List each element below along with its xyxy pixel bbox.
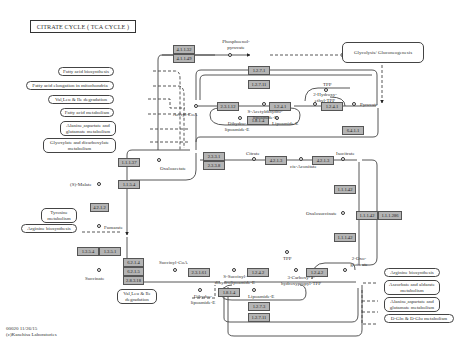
enzyme-1-1-1-37[interactable]: 1.1.1.37 xyxy=(118,158,140,167)
compound-node-oxoglutarate[interactable] xyxy=(343,268,347,272)
label-citrate: Citrate xyxy=(246,151,260,157)
compound-node-acetyl-coa[interactable] xyxy=(194,104,198,108)
enzyme-6-2-1-4[interactable]: 6.2.1.4 xyxy=(123,258,144,267)
enzyme-1-2-7-11-b[interactable]: 1.2.7.11 xyxy=(248,313,270,322)
label-cis-aconitate: cis-Aconitate xyxy=(290,164,317,170)
enzyme-1-2-4-1-b[interactable]: 1.2.4.1 xyxy=(321,102,343,111)
label-acetyl-coa: Acetyl-CoA xyxy=(173,112,197,118)
enzyme-2-3-3-1[interactable]: 2.3.3.1 xyxy=(203,152,225,161)
label-fumarate: Fumarate xyxy=(104,225,123,231)
enzyme-1-2-7-1[interactable]: 1.2.7.1 xyxy=(248,66,270,75)
compound-node-phosphoenolpyruvate[interactable] xyxy=(228,53,232,57)
compound-node-succinate[interactable] xyxy=(97,268,101,272)
enzyme-1-1-1-42-a[interactable]: 1.1.1.42 xyxy=(334,185,356,194)
enzyme-1-1-5-4[interactable]: 1.1.5.4 xyxy=(118,180,140,189)
label-dihydrolipoamide-bottom: Dihydro-lipoamide-E xyxy=(189,294,217,305)
enzyme-4-2-1-3-a[interactable]: 4.2.1.3 xyxy=(265,156,287,165)
label-lipoamide-bottom: Lipoamide-E xyxy=(248,294,274,300)
label-dihydrolipoamide-top: Dihydro-lipoamide-E xyxy=(222,121,252,132)
map-ala-asp-glu-right[interactable]: Alanine,aspartate and glutamate metaboli… xyxy=(384,297,440,312)
compound-node-tpp-bottom[interactable] xyxy=(285,250,289,254)
label-succinyl-coa: Succinyl-CoA xyxy=(159,260,188,266)
enzyme-1-1-1-42-b[interactable]: 1.1.1.42 xyxy=(356,211,378,220)
label-phosphoenolpyruvate: Phosphoenol-pyruvate xyxy=(214,39,258,50)
label-oxalosuccinate: Oxalosuccinate xyxy=(306,211,337,217)
map-arginine-left[interactable]: Arginine biosynthesis xyxy=(21,224,77,233)
map-ala-asp-glu-left[interactable]: Alanine,aspartate and glutamate metaboli… xyxy=(60,121,116,136)
label-oxoglutarate: 2-Oxo-glutarate xyxy=(348,256,370,267)
compound-node-dihydrolipoamide-bottom[interactable] xyxy=(198,288,202,292)
compound-node-malate[interactable] xyxy=(97,182,101,186)
enzyme-2-3-3-8[interactable]: 2.3.3.8 xyxy=(203,161,225,170)
footer: 00020 11/26/15 (c)Kanehisa Laboratories xyxy=(6,326,57,337)
label-succinate: Succinate xyxy=(85,276,104,282)
compound-node-pyruvate[interactable] xyxy=(352,102,356,106)
enzyme-1-8-1-4-bottom[interactable]: 1.8.1.4 xyxy=(218,288,240,297)
label-isocitrate: Isocitrate xyxy=(336,151,355,157)
enzyme-1-2-7-11[interactable]: 1.2.7.11 xyxy=(248,80,270,89)
enzyme-4-2-1-2[interactable]: 4.2.1.2 xyxy=(90,203,109,212)
label-pyruvate: Pyruvate xyxy=(360,102,378,108)
label-oxaloacetate-left: Oxaloacetate xyxy=(160,166,186,172)
enzyme-1-3-5-4[interactable]: 1.3.5.4 xyxy=(77,247,99,256)
enzyme-2-3-1-61[interactable]: 2.3.1.61 xyxy=(188,268,210,277)
compound-node-s-succinyldihydrolipoamide[interactable] xyxy=(232,268,236,272)
enzyme-2-8-3-18[interactable]: 2.8.3.18 xyxy=(123,276,144,285)
map-fatty-acid-biosynthesis[interactable]: Fatty acid biosynthesis xyxy=(58,67,114,76)
compound-node-citrate[interactable] xyxy=(252,157,256,161)
compound-node-cis-aconitate[interactable] xyxy=(299,157,303,161)
compound-node-isocitrate[interactable] xyxy=(341,157,345,161)
compound-node-lipoamide-bottom[interactable] xyxy=(252,288,256,292)
label-s-succinyldihydrolipoamide: S-Succinyl-dihydrolipoamide-E xyxy=(212,274,258,285)
compound-node-carboxy-hydroxypropyl-tpp[interactable] xyxy=(294,268,298,272)
map-ascorbate[interactable]: Ascorbate and aldarate metabolism xyxy=(384,280,440,295)
label-s-acetyldihydrolipoamide: S-Acetyldihydro-lipoamide-E xyxy=(240,109,290,120)
label-tpp-top: TPP xyxy=(323,82,332,88)
pathway-title: CITRATE CYCLE ( TCA CYCLE ) xyxy=(30,20,136,33)
enzyme-6-2-1-5[interactable]: 6.2.1.5 xyxy=(123,267,144,276)
enzyme-1-1-1-286[interactable]: 1.1.1.286 xyxy=(378,211,402,220)
label-tpp-bottom: TPP xyxy=(283,256,292,262)
compound-node-s-acetyldihydrolipoamide[interactable] xyxy=(262,102,266,106)
map-arginine-right[interactable]: Arginine biosynthesis xyxy=(384,268,440,277)
compound-node-oxalosuccinate[interactable] xyxy=(341,211,345,215)
enzyme-2-3-1-12[interactable]: 2.3.1.12 xyxy=(217,102,239,111)
compound-node-fumarate[interactable] xyxy=(97,224,101,228)
label-malate: (S)-Malate xyxy=(70,182,92,188)
footer-copyright: (c)Kanehisa Laboratories xyxy=(6,332,57,338)
enzyme-1-2-7-3[interactable]: 1.2.7.3 xyxy=(248,302,270,311)
map-val-leu-ile-bottom[interactable]: Val,Leu & Ile degradation xyxy=(117,289,157,304)
map-glycolysis[interactable]: Glycolysis/ Gluconeogenesis xyxy=(342,42,424,63)
label-hydroxyethyl-tpp: 2-Hydroxy-ethyl-TPP xyxy=(311,92,339,103)
enzyme-1-1-1-42-c[interactable]: 1.1.1.42 xyxy=(334,233,356,242)
label-carboxy-hydroxypropyl-tpp: 3-Carboxy-1-hydroxypropyl-TPP xyxy=(277,275,325,286)
map-fatty-acid-metabolism[interactable]: Fatty acid metabolism xyxy=(60,108,114,117)
map-glyoxylate[interactable]: Glyoxylate and dicarboxylate metabolism xyxy=(43,138,116,153)
map-val-leu-ile-top[interactable]: Val,Leu & Ile degradation xyxy=(48,95,114,104)
enzyme-6-4-1-1[interactable]: 6.4.1.1 xyxy=(342,126,364,135)
compound-node-succinyl-coa[interactable] xyxy=(173,268,177,272)
label-lipoamide-top: Lipoamide-E xyxy=(272,121,298,127)
map-fatty-acid-elongation[interactable]: Fatty acid elongation in mitochondria xyxy=(26,81,114,90)
enzyme-4-1-1-49[interactable]: 4.1.1.49 xyxy=(173,54,195,63)
map-d-gln-d-glu[interactable]: D-Gln & D-Glu metabolism xyxy=(384,314,454,323)
enzyme-4-1-1-32[interactable]: 4.1.1.32 xyxy=(173,45,195,54)
compound-node-oxaloacetate-left[interactable] xyxy=(157,158,161,162)
map-tyrosine[interactable]: Tyrosine metabolism xyxy=(41,208,77,223)
enzyme-1-3-5-1[interactable]: 1.3.5.1 xyxy=(99,247,121,256)
